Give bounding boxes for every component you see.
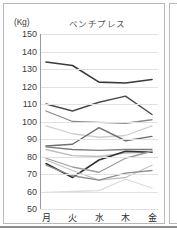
gridline-120: [40, 87, 158, 88]
gridline-140: [40, 52, 158, 53]
x-tick-4: 金: [141, 211, 163, 224]
x-tick-1: 火: [62, 211, 84, 224]
gridline-130: [40, 69, 158, 70]
x-axis-tick-labels: 月火水木金: [40, 211, 158, 227]
adjacent-panel: [169, 3, 177, 224]
gridline-80: [40, 157, 158, 158]
y-tick-130: 130: [9, 65, 37, 74]
y-axis-line: [40, 34, 41, 209]
gridline-150: [40, 34, 158, 35]
y-tick-80: 80: [9, 153, 37, 162]
page-bottom-edge: [0, 226, 177, 228]
y-tick-110: 110: [9, 100, 37, 109]
gridline-90: [40, 139, 158, 140]
y-tick-140: 140: [9, 48, 37, 57]
chart-screenshot: (Kg) ベンチプレス 1501401301201101009080706050…: [0, 0, 177, 230]
y-tick-90: 90: [9, 135, 37, 144]
gridline-70: [40, 174, 158, 175]
gridline-60: [40, 192, 158, 193]
y-tick-120: 120: [9, 83, 37, 92]
y-axis-tick-labels: 1501401301201101009080706050: [7, 34, 37, 209]
gridline-50: [40, 209, 158, 210]
gridlines: [40, 34, 158, 209]
bench-press-line-chart: (Kg) ベンチプレス 1501401301201101009080706050…: [7, 7, 169, 228]
plot-area: [40, 34, 158, 209]
chart-title: ベンチプレス: [7, 17, 169, 29]
gridline-100: [40, 122, 158, 123]
y-tick-60: 60: [9, 188, 37, 197]
y-tick-50: 50: [9, 205, 37, 214]
y-tick-70: 70: [9, 170, 37, 179]
y-tick-100: 100: [9, 118, 37, 127]
gridline-110: [40, 104, 158, 105]
y-tick-150: 150: [9, 30, 37, 39]
x-tick-3: 木: [115, 211, 137, 224]
chart-panel: (Kg) ベンチプレス 1501401301201101009080706050…: [3, 3, 165, 224]
x-tick-2: 水: [88, 211, 110, 224]
x-tick-0: 月: [35, 211, 57, 224]
